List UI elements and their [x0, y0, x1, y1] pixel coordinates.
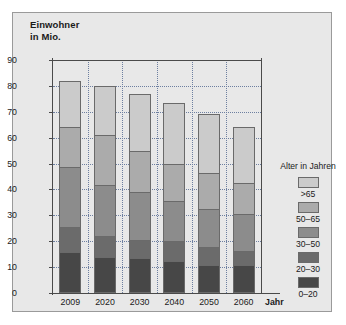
bar-segment	[95, 236, 115, 257]
y-axis-title: Einwohner in Mio.	[30, 19, 79, 42]
bar-segment	[60, 227, 80, 252]
y-tick-label: 30	[7, 210, 17, 220]
bar-2009	[59, 81, 81, 293]
bar-segment	[130, 95, 150, 152]
bar-segment	[95, 185, 115, 236]
plot-right-border	[261, 58, 262, 294]
chart-panel: Einwohner in Mio. 9080706050403020100 20…	[12, 12, 332, 312]
legend-item: 0–20	[268, 277, 346, 299]
bar-segment	[60, 127, 80, 167]
y-tick-label: 20	[7, 236, 17, 246]
bar-segment	[164, 104, 184, 164]
bar-segment	[164, 164, 184, 201]
bar-segment	[130, 192, 150, 239]
legend-item: 30–50	[268, 227, 346, 249]
y-tick-mark	[49, 86, 53, 87]
legend-label: >65	[268, 189, 346, 199]
vertical-gridline	[122, 60, 123, 293]
legend-item: >65	[268, 177, 346, 199]
legend-item: 20–30	[268, 252, 346, 274]
bar-segment	[60, 167, 80, 227]
legend: Alter in Jahren >6550–6530–5020–300–20	[268, 161, 346, 299]
bar-2030	[129, 94, 151, 293]
bar-segment	[199, 209, 219, 248]
x-tick-label-2030: 2030	[130, 297, 150, 307]
plot-top-border	[52, 60, 262, 61]
vertical-gridline	[192, 60, 193, 293]
y-tick-label: 90	[7, 55, 17, 65]
y-tick-label: 50	[7, 159, 17, 169]
x-tick-label-2040: 2040	[165, 297, 185, 307]
y-tick-label: 40	[7, 184, 17, 194]
bar-segment	[234, 265, 254, 292]
x-tick-label-2060: 2060	[234, 297, 254, 307]
bar-segment	[164, 261, 184, 292]
x-tick-label-2050: 2050	[199, 297, 219, 307]
legend-swatch	[298, 252, 319, 263]
y-tick-mark	[49, 215, 53, 216]
legend-swatch	[298, 202, 319, 213]
bar-segment	[164, 241, 184, 261]
x-tick-label-2020: 2020	[95, 297, 115, 307]
bar-segment	[95, 87, 115, 135]
bar-2020	[94, 86, 116, 293]
bar-segment	[234, 128, 254, 183]
y-tick-mark	[49, 189, 53, 190]
vertical-gridline	[226, 60, 227, 293]
bar-2050	[198, 114, 220, 293]
bar-segment	[164, 201, 184, 241]
bar-segment	[199, 265, 219, 292]
y-tick-mark	[49, 138, 53, 139]
legend-label: 30–50	[268, 239, 346, 249]
bar-segment	[60, 252, 80, 292]
y-tick-mark	[49, 164, 53, 165]
x-axis-line	[52, 293, 280, 294]
legend-swatch	[298, 177, 319, 188]
bar-segment	[130, 240, 150, 259]
bar-segment	[199, 247, 219, 264]
legend-label: 0–20	[268, 289, 346, 299]
legend-label: 20–30	[268, 264, 346, 274]
plot-area	[53, 60, 261, 293]
legend-items: >6550–6530–5020–300–20	[268, 161, 346, 299]
legend-swatch	[298, 277, 319, 288]
legend-title: Alter in Jahren	[262, 161, 346, 171]
bar-segment	[234, 214, 254, 251]
bar-segment	[95, 135, 115, 185]
y-tick-label: 60	[7, 133, 17, 143]
y-tick-label: 70	[7, 107, 17, 117]
y-tick-label: 10	[7, 262, 17, 272]
bar-segment	[199, 115, 219, 173]
bar-segment	[130, 258, 150, 292]
legend-swatch	[298, 227, 319, 238]
bar-segment	[95, 257, 115, 292]
y-axis-line	[52, 58, 53, 295]
vertical-gridline	[88, 60, 89, 293]
y-tick-mark	[49, 241, 53, 242]
y-tick-label: 0	[12, 288, 17, 298]
y-tick-label: 80	[7, 81, 17, 91]
bar-segment	[60, 82, 80, 127]
y-tick-mark	[49, 293, 53, 294]
y-tick-mark	[49, 60, 53, 61]
legend-label: 50–65	[268, 214, 346, 224]
y-tick-mark	[49, 112, 53, 113]
bar-segment	[234, 183, 254, 214]
y-tick-mark	[49, 267, 53, 268]
bar-segment	[234, 251, 254, 264]
bar-segment	[199, 173, 219, 209]
bar-2060	[233, 127, 255, 293]
vertical-gridline	[157, 60, 158, 293]
bar-2040	[163, 103, 185, 293]
bar-segment	[130, 151, 150, 192]
legend-item: 50–65	[268, 202, 346, 224]
x-tick-label-2009: 2009	[61, 297, 81, 307]
